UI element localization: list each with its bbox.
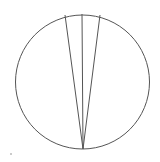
artifact-dot (10, 153, 12, 155)
chords-group (65, 14, 100, 149)
left-chord (65, 15, 83, 149)
geometry-diagram (0, 0, 160, 162)
middle-chord (82, 14, 83, 149)
right-chord (83, 15, 100, 149)
